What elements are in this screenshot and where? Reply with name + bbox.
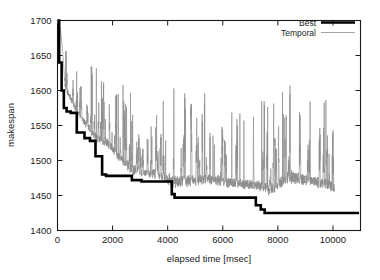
y-axis-label: makespan (5, 103, 16, 147)
legend-label-best: Best (299, 18, 317, 28)
y-tick-label: 1400 (30, 225, 51, 236)
x-tick-label: 0 (55, 234, 60, 245)
x-tick-label: 8000 (267, 234, 288, 245)
x-axis-label: elapsed time [msec] (167, 253, 251, 264)
y-tick-label: 1450 (30, 190, 51, 201)
x-tick-label: 4000 (157, 234, 178, 245)
y-tick-label: 1500 (30, 155, 51, 166)
makespan-line-chart: 1400145015001550160016501700 02000400060… (0, 0, 380, 280)
legend-label-temporal: Temporal (281, 28, 316, 38)
chart-figure: 1400145015001550160016501700 02000400060… (0, 0, 380, 280)
y-tick-label: 1600 (30, 85, 51, 96)
y-tick-label: 1550 (30, 120, 51, 131)
y-tick-label: 1650 (30, 50, 51, 61)
x-tick-label: 10000 (320, 234, 346, 245)
x-tick-label: 2000 (102, 234, 123, 245)
x-tick-label: 6000 (212, 234, 233, 245)
y-tick-label: 1700 (30, 15, 51, 26)
